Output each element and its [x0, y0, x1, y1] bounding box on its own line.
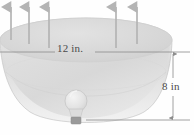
reflector-diagram	[0, 0, 194, 135]
bowl-rim-ellipse	[0, 18, 172, 62]
reflector-bowl	[0, 18, 172, 123]
depth-label: 8 in	[162, 80, 180, 92]
figure-canvas: 12 in. 8 in	[0, 0, 194, 135]
diameter-label: 12 in.	[57, 42, 83, 54]
bulb-screw-base	[71, 117, 81, 124]
